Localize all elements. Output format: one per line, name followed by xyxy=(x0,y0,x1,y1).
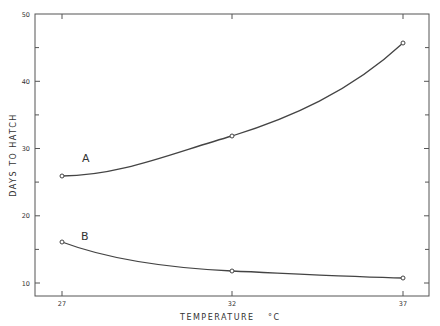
xtick-32: 32 xyxy=(228,300,236,308)
x-axis-title: TEMPERATURE xyxy=(179,313,255,322)
x-tick-labels: 27 32 37 xyxy=(58,300,407,308)
ytick-50: 50 xyxy=(22,11,30,19)
x-axis-ticks xyxy=(62,14,403,296)
series-a-line xyxy=(62,43,403,176)
ytick-10: 10 xyxy=(22,280,30,288)
series-a-points xyxy=(60,41,405,178)
y-axis-ticks-left xyxy=(35,48,40,283)
series-a-label: A xyxy=(82,152,90,165)
y-axis-ticks-right xyxy=(424,48,429,283)
y-axis-title: DAYS TO HATCH xyxy=(9,113,18,197)
y-tick-labels: 10 20 30 40 50 xyxy=(22,11,30,288)
series-b-label: B xyxy=(81,230,89,243)
series-b-points xyxy=(60,240,405,280)
chart: 10 20 30 40 50 27 32 37 TEMPERATURE °C D… xyxy=(0,0,440,326)
ytick-30: 30 xyxy=(22,145,30,153)
plot-frame xyxy=(35,14,429,296)
ytick-40: 40 xyxy=(22,78,30,86)
ytick-20: 20 xyxy=(22,212,30,220)
xtick-37: 37 xyxy=(399,300,407,308)
x-axis-unit: °C xyxy=(268,313,281,322)
xtick-27: 27 xyxy=(58,300,66,308)
